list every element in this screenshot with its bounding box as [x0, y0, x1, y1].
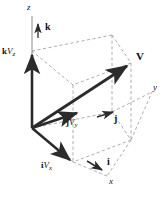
component-label-jVy: jVy	[66, 118, 78, 129]
component-jVy-subscript: y	[75, 121, 78, 129]
vector-iVx	[32, 128, 70, 160]
component-kVz-subscript: z	[13, 50, 16, 58]
axis-label-y: y	[153, 83, 157, 92]
component-label-iVx: iVx	[41, 161, 52, 172]
vector-diagram-figure: z y x k j i kVz jVy iVx V	[0, 0, 166, 199]
construction-box	[32, 35, 131, 162]
unit-vector-label-k: k	[45, 22, 51, 32]
component-iVx-subscript: x	[49, 164, 52, 172]
axis-label-z: z	[27, 3, 31, 12]
axis-label-x: x	[109, 177, 113, 186]
component-label-kVz: kVz	[2, 47, 15, 58]
y-axis-line	[131, 92, 152, 140]
y-axis-line-upper	[112, 92, 152, 112]
unit-vector-label-j: j	[114, 114, 117, 124]
vector-V	[32, 66, 127, 128]
vector-diagram-svg	[0, 0, 166, 199]
box-edge-top-back-right	[112, 35, 131, 63]
resultant-vector-label-V: V	[136, 51, 144, 62]
box-edge-bottom-front-right	[73, 140, 131, 162]
box-edge-top-back-left	[32, 35, 112, 51]
unit-vector-label-i: i	[107, 157, 110, 167]
box-edge-top-front-left	[32, 51, 73, 85]
x-axis-line-diag	[107, 140, 131, 176]
x-axis-line	[73, 162, 107, 176]
